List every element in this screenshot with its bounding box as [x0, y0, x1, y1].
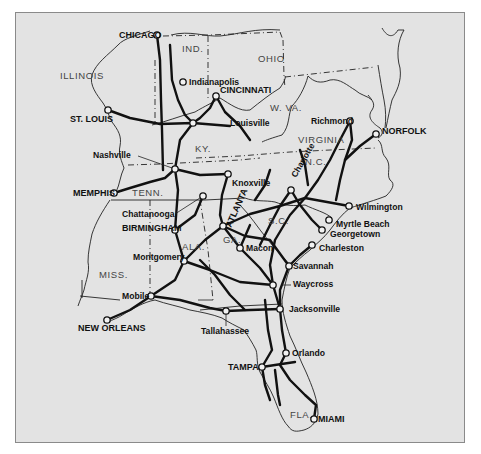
- city-marker-icon: [200, 193, 206, 199]
- state-label-indiana: IND.: [182, 43, 203, 54]
- state-label-mississippi: MISS.: [99, 269, 128, 280]
- city-marker-icon: [283, 350, 289, 356]
- city-label: Nashville: [93, 150, 131, 160]
- city-marker-icon: [225, 171, 231, 177]
- city-marker-icon: [190, 120, 196, 126]
- city-savannah: Savannah: [286, 261, 334, 271]
- city-label: Montgomery: [133, 252, 185, 262]
- city-marker-icon: [311, 416, 317, 422]
- city-label: Jacksonville: [289, 304, 340, 314]
- rail-map: ILLINOISIND.OHIOW. VA.VIRGINIAKY.TENN.N.…: [0, 0, 481, 454]
- city-label: ST. LOUIS: [70, 114, 113, 124]
- city-nashville: Nashville: [93, 150, 178, 172]
- city-label: MEMPHIS: [73, 188, 115, 198]
- city-marker-icon: [259, 364, 265, 370]
- city-label: BIRMINGHAM: [122, 223, 182, 233]
- city-label: Mobile: [122, 291, 149, 301]
- city-marker-icon: [277, 306, 283, 312]
- city-label: NORFOLK: [382, 126, 427, 136]
- city-label: Savannah: [293, 261, 334, 271]
- city-label: Knoxville: [232, 178, 270, 188]
- city-cincinnati: CINCINNATI: [213, 85, 272, 99]
- city-label: Macon: [246, 243, 273, 253]
- city-label: Louisville: [230, 118, 270, 128]
- state-label-south-carolina: S.C.: [268, 215, 289, 226]
- city-label: Myrtle Beach: [336, 219, 390, 229]
- city-tallahassee: Tallahassee: [201, 308, 249, 336]
- city-marker-icon: [237, 245, 243, 251]
- city-label: Richmond: [311, 116, 353, 126]
- city-atlanta: ATLANTA: [220, 187, 250, 230]
- city-marker-icon: [346, 203, 352, 209]
- city-marker-icon: [373, 131, 379, 137]
- city-label: Waycross: [293, 279, 334, 289]
- state-label-tennessee: TENN.: [132, 187, 164, 198]
- city-myrtle-beach: Myrtle Beach: [326, 217, 390, 229]
- city-orlando: Orlando: [283, 348, 325, 358]
- city-montgomery: Montgomery: [133, 252, 187, 264]
- city-marker-icon: [105, 107, 111, 113]
- city-mobile: Mobile: [122, 291, 154, 301]
- state-label-georgia: GA.: [223, 234, 241, 245]
- city-richmond: Richmond: [311, 116, 353, 126]
- city-label: Chattanooga: [122, 209, 175, 219]
- state-label-florida: FLA.: [290, 409, 312, 420]
- city-marker-icon: [213, 93, 219, 99]
- city-label: NEW ORLEANS: [78, 323, 146, 333]
- city-label: Orlando: [292, 348, 325, 358]
- city-label: CHICAGO: [119, 30, 162, 40]
- city-label: Wilmington: [356, 202, 403, 212]
- city-label: Tallahassee: [201, 326, 249, 336]
- city-marker-icon: [309, 242, 315, 248]
- city-label: MIAMI: [318, 414, 345, 424]
- city-marker-icon: [172, 166, 178, 172]
- city-label: Charleston: [319, 243, 364, 253]
- city-marker-icon: [326, 217, 332, 223]
- city-charlotte: Charlotte: [288, 141, 317, 193]
- state-label-virginia: VIRGINIA: [298, 134, 345, 145]
- state-label-illinois: ILLINOIS: [60, 70, 104, 81]
- city-chicago: CHICAGO: [119, 30, 162, 40]
- city-miami: MIAMI: [311, 414, 345, 424]
- city-marker-icon: [319, 227, 325, 233]
- city-marker-icon: [288, 187, 294, 193]
- city-jacksonville: Jacksonville: [277, 304, 341, 314]
- city-knoxville: Knoxville: [225, 171, 271, 188]
- city-label: ATLANTA: [224, 187, 250, 229]
- city-memphis: MEMPHIS: [73, 188, 117, 198]
- city-marker-icon: [180, 79, 186, 85]
- state-label-kentucky: KY.: [195, 143, 211, 154]
- city-marker-icon: [223, 308, 229, 314]
- city-label: Georgetown: [330, 229, 380, 239]
- state-label-alabama: ALA.: [182, 241, 205, 252]
- city-marker-icon: [286, 263, 292, 269]
- city-label: CINCINNATI: [220, 85, 271, 95]
- city-waycross: Waycross: [270, 279, 334, 289]
- city-label: TAMPA: [228, 362, 259, 372]
- state-label-west-virginia: W. VA.: [270, 102, 302, 113]
- state-label-ohio: OHIO: [258, 53, 285, 64]
- city-st-louis: ST. LOUIS: [70, 107, 113, 124]
- city-marker-icon: [270, 282, 276, 288]
- city-birmingham: BIRMINGHAM: [122, 223, 182, 233]
